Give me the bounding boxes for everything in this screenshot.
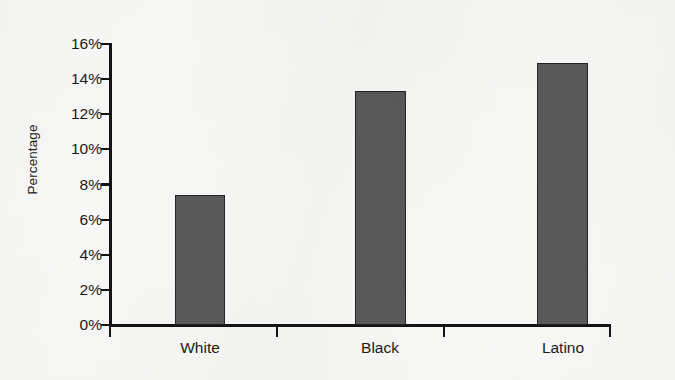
x-tick-mark bbox=[109, 326, 111, 337]
x-category-label-black: Black bbox=[361, 339, 399, 357]
y-tick-label: 6% bbox=[44, 212, 102, 228]
x-tick-mark bbox=[609, 326, 611, 337]
x-tick-mark bbox=[276, 326, 278, 337]
y-tick-label: 4% bbox=[44, 247, 102, 263]
y-tick-mark bbox=[101, 289, 109, 291]
y-tick-label: 14% bbox=[44, 71, 102, 87]
x-category-label-white: White bbox=[180, 339, 220, 357]
y-tick-mark bbox=[101, 43, 109, 45]
y-axis-title: Percentage bbox=[25, 100, 40, 220]
bar-chart: Percentage 0% 2% 4% 6% 8% 10% 12% 14% 16… bbox=[0, 0, 675, 380]
y-tick-mark bbox=[101, 113, 109, 115]
bar-latino bbox=[537, 63, 588, 325]
y-tick-mark bbox=[101, 254, 109, 256]
y-axis-line bbox=[109, 43, 112, 326]
y-tick-label: 16% bbox=[44, 36, 102, 52]
y-tick-label: 0% bbox=[44, 317, 102, 333]
y-axis-tick-labels: 0% 2% 4% 6% 8% 10% 12% 14% 16% bbox=[40, 0, 102, 380]
y-tick-label: 2% bbox=[44, 282, 102, 298]
y-tick-label: 12% bbox=[44, 107, 102, 123]
y-tick-mark bbox=[101, 78, 109, 80]
y-tick-label: 10% bbox=[44, 142, 102, 158]
bar-white bbox=[175, 195, 225, 325]
y-tick-mark bbox=[101, 148, 109, 150]
y-tick-mark bbox=[101, 219, 109, 221]
y-tick-label: 8% bbox=[44, 177, 102, 193]
y-tick-mark bbox=[101, 183, 109, 185]
x-tick-mark bbox=[443, 326, 445, 337]
bar-black bbox=[355, 91, 406, 325]
x-category-label-latino: Latino bbox=[542, 339, 584, 357]
